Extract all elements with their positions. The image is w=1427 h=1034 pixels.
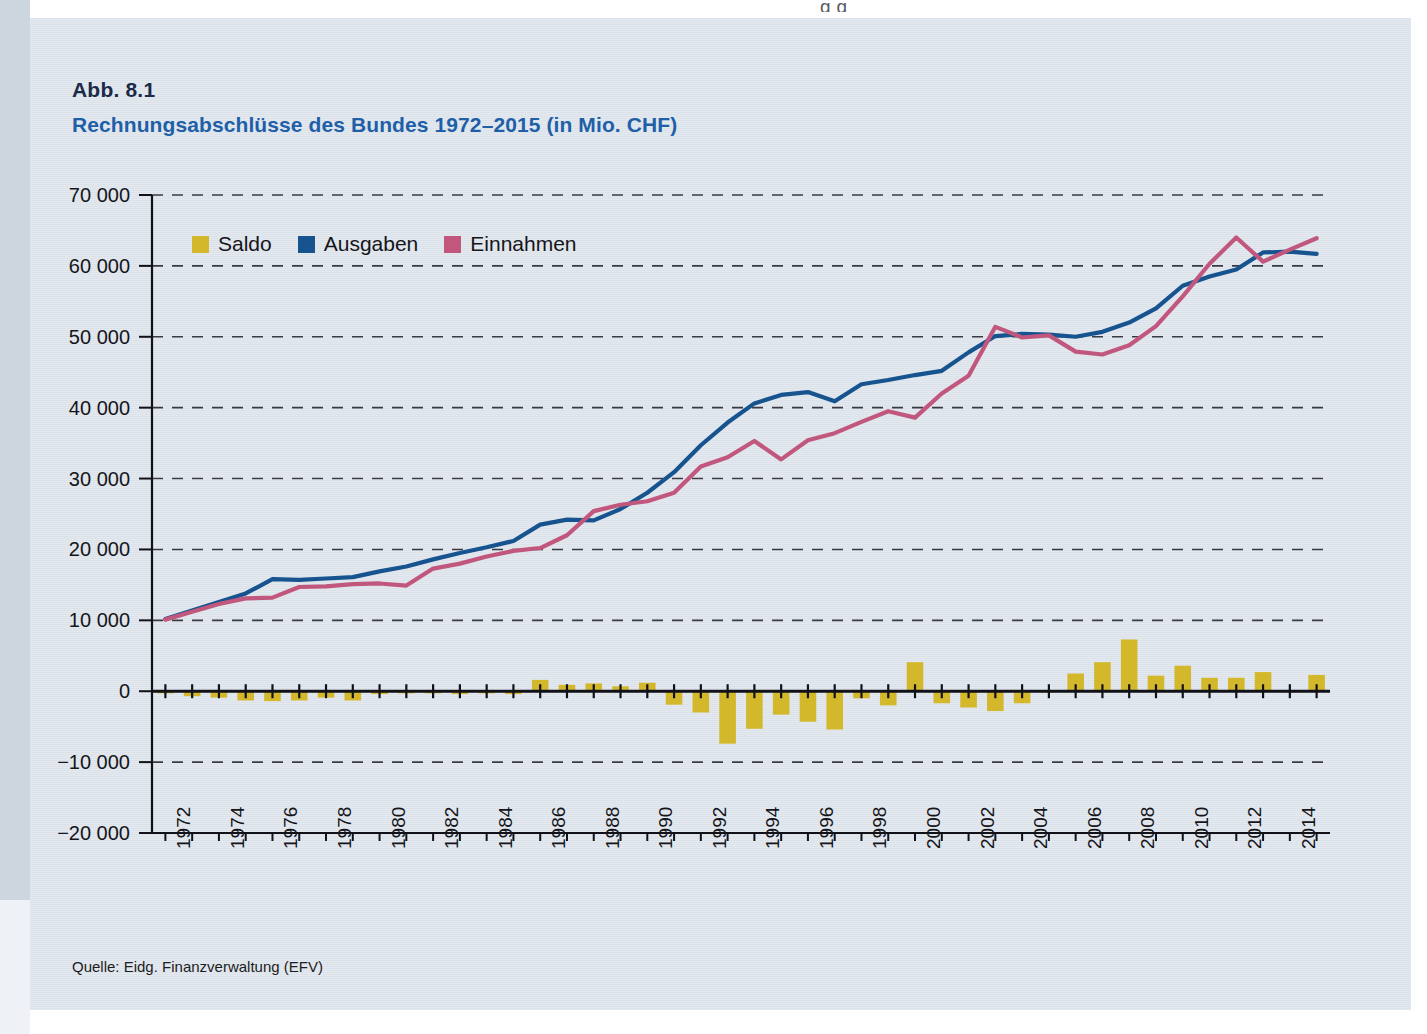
- source-note: Quelle: Eidg. Finanzverwaltung (EFV): [72, 958, 323, 975]
- y-axis-label: −10 000: [30, 751, 130, 774]
- legend-swatch-icon: [298, 236, 315, 253]
- x-axis-label: 1982: [441, 807, 463, 849]
- page-margin-tint-top: [0, 0, 30, 900]
- x-axis-label: 1978: [334, 807, 356, 849]
- chart-legend: SaldoAusgabenEinnahmen: [192, 232, 577, 256]
- x-axis-label: 2012: [1244, 807, 1266, 849]
- x-axis-label: 1984: [495, 807, 517, 849]
- x-axis-label: 1972: [173, 807, 195, 849]
- saldo-bar: [719, 691, 736, 743]
- legend-label: Saldo: [218, 232, 272, 256]
- x-axis-label: 2006: [1084, 807, 1106, 849]
- x-axis-label: 1986: [548, 807, 570, 849]
- x-axis-label: 1990: [655, 807, 677, 849]
- cutoff-text-above: g g: [0, 0, 1427, 12]
- legend-item: Saldo: [192, 232, 272, 256]
- y-axis-label: 20 000: [30, 538, 130, 561]
- x-axis-label: 2002: [977, 807, 999, 849]
- chart-svg: [30, 18, 1411, 1010]
- saldo-bar: [1121, 639, 1138, 691]
- figure-panel: Abb. 8.1 Rechnungsabschlüsse des Bundes …: [30, 18, 1411, 1010]
- y-axis-label: −20 000: [30, 822, 130, 845]
- x-axis-label: 2010: [1191, 807, 1213, 849]
- y-axis-label: 30 000: [30, 467, 130, 490]
- page-margin-right: [1411, 18, 1427, 1010]
- x-axis-label: 1988: [602, 807, 624, 849]
- page-margin-tint-bottom: [0, 900, 30, 1034]
- page-canvas: g g Abb. 8.1 Rechnungsabschlüsse des Bun…: [0, 0, 1427, 1034]
- x-axis-label: 2008: [1137, 807, 1159, 849]
- x-axis-label: 1980: [388, 807, 410, 849]
- einnahmen-line: [165, 238, 1316, 620]
- y-axis-label: 70 000: [30, 184, 130, 207]
- y-axis-label: 40 000: [30, 396, 130, 419]
- legend-item: Ausgaben: [298, 232, 419, 256]
- x-axis-label: 2000: [923, 807, 945, 849]
- y-axis-label: 0: [30, 680, 130, 703]
- y-axis-label: 10 000: [30, 609, 130, 632]
- chart-area: 70 00060 00050 00040 00030 00020 00010 0…: [30, 18, 1411, 1010]
- legend-label: Einnahmen: [470, 232, 576, 256]
- legend-swatch-icon: [444, 236, 461, 253]
- x-axis-label: 1998: [869, 807, 891, 849]
- x-axis-label: 1974: [227, 807, 249, 849]
- x-axis-label: 1994: [762, 807, 784, 849]
- x-axis-label: 2014: [1298, 807, 1320, 849]
- y-axis-label: 50 000: [30, 325, 130, 348]
- legend-swatch-icon: [192, 236, 209, 253]
- x-axis-label: 2004: [1030, 807, 1052, 849]
- x-axis-label: 1976: [280, 807, 302, 849]
- legend-label: Ausgaben: [324, 232, 419, 256]
- x-axis-label: 1992: [709, 807, 731, 849]
- legend-item: Einnahmen: [444, 232, 576, 256]
- x-axis-label: 1996: [816, 807, 838, 849]
- y-axis-label: 60 000: [30, 254, 130, 277]
- ausgaben-line: [165, 252, 1316, 619]
